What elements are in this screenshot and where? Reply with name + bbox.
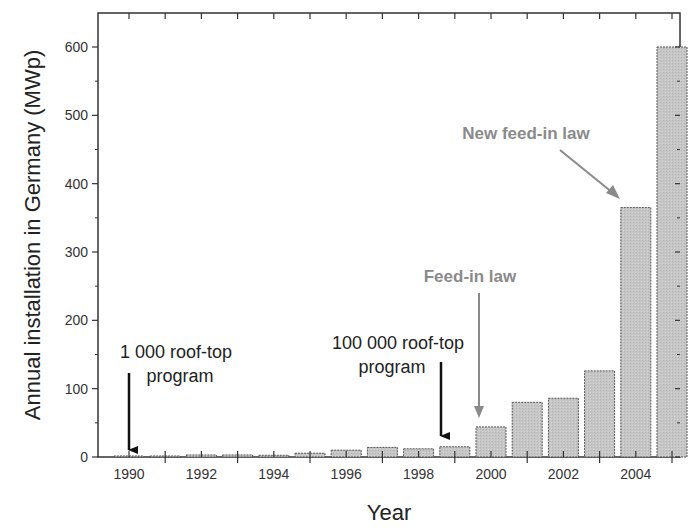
y-tick-label: 300 xyxy=(65,244,89,260)
bars-group xyxy=(114,47,687,457)
annotation-1000-rooftop: 1 000 roof-topprogram xyxy=(120,342,232,450)
y-tick-label: 600 xyxy=(65,39,89,55)
bar-2003 xyxy=(585,371,615,457)
bar-2004 xyxy=(621,208,651,457)
x-tick-label: 1992 xyxy=(186,466,217,482)
arrow-line xyxy=(560,150,613,193)
annotation-new-feed-in-law: New feed-in law xyxy=(462,124,620,199)
y-tick-label: 500 xyxy=(65,107,89,123)
y-tick-label: 200 xyxy=(65,312,89,328)
x-tick-label: 2002 xyxy=(548,466,579,482)
annotation-text: 100 000 roof-top xyxy=(332,333,464,353)
x-tick-label: 2004 xyxy=(620,466,651,482)
y-tick-label: 400 xyxy=(65,176,89,192)
annotation-text: New feed-in law xyxy=(462,124,590,143)
x-tick-label: 2000 xyxy=(475,466,506,482)
y-axis-title: Annual installation in Germany (MWp) xyxy=(20,50,45,420)
annotation-100000-rooftop: 100 000 roof-topprogram xyxy=(332,333,464,436)
annotation-text: Feed-in law xyxy=(424,267,517,286)
annotation-text: program xyxy=(146,366,213,386)
x-axis-title: Year xyxy=(367,500,411,525)
x-tick-label: 1994 xyxy=(258,466,289,482)
annotations-group: 1 000 roof-topprogram100 000 roof-toppro… xyxy=(120,124,620,450)
annotation-text: program xyxy=(358,357,425,377)
arrow-down-icon xyxy=(474,406,484,418)
annotation-text: 1 000 roof-top xyxy=(120,342,232,362)
x-tick-label: 1996 xyxy=(331,466,362,482)
bar-chart: 0100200300400500600199019921994199619982… xyxy=(0,0,690,530)
bar-2005 xyxy=(657,47,687,457)
bar-2002 xyxy=(548,398,578,457)
x-tick-label: 1998 xyxy=(403,466,434,482)
bar-2001 xyxy=(512,402,542,457)
y-tick-label: 100 xyxy=(65,381,89,397)
arrow-diagonal-icon xyxy=(606,185,620,199)
y-tick-label: 0 xyxy=(80,449,88,465)
x-tick-label: 1990 xyxy=(113,466,144,482)
